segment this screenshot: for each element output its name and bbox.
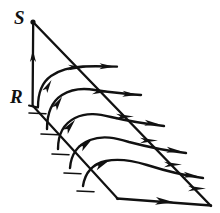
tick-mark-5 [77, 191, 94, 192]
streamlines-group [38, 63, 203, 186]
tick-mark-4 [64, 173, 81, 174]
tick-mark-3 [52, 154, 69, 155]
tick-mark-2 [41, 134, 58, 135]
streamline-1 [38, 63, 117, 107]
vertical-sr-line [33, 22, 34, 106]
streamline-5-arrowhead-a [94, 157, 111, 170]
upper-diagonal-edge [34, 23, 212, 207]
bottom-edge-group [117, 197, 211, 206]
label-s: S [14, 7, 25, 28]
tick-mark-1 [29, 113, 46, 114]
streamline-2 [47, 89, 141, 129]
streamline-1-path [38, 66, 117, 107]
diagram-canvas: S R [0, 0, 220, 213]
streamline-3 [58, 114, 164, 149]
vertical-sr-segment [29, 22, 38, 108]
labels-group: S R [9, 7, 25, 107]
streamline-1-arrowhead-a [42, 78, 54, 93]
label-r: R [9, 86, 23, 107]
figure-root: S R [0, 0, 220, 213]
streamline-3-path [58, 114, 164, 149]
